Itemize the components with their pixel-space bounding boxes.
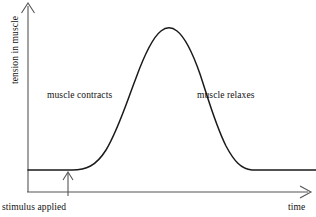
annotation-muscle-relaxes: muscle relaxes [197, 91, 255, 101]
annotation-stimulus-applied: stimulus applied [2, 203, 66, 213]
x-axis [27, 186, 311, 198]
x-axis-label: time [288, 203, 305, 213]
y-axis [22, 3, 35, 192]
y-axis-label: tension in muscle [11, 16, 21, 84]
annotation-muscle-contracts: muscle contracts [47, 91, 112, 101]
chart-svg [0, 0, 316, 217]
muscle-tension-chart: tension in muscle muscle contracts muscl… [0, 0, 316, 217]
